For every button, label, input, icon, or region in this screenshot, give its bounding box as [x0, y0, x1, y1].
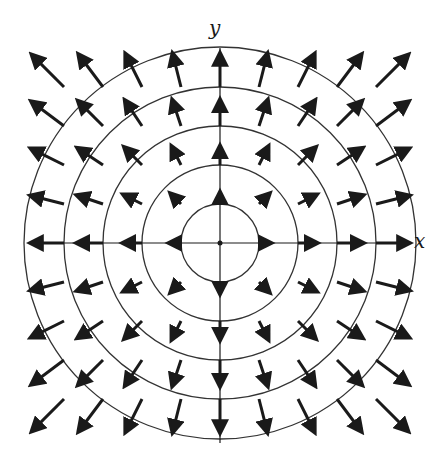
field-arrow-icon	[376, 399, 408, 431]
field-arrow-icon	[259, 194, 269, 204]
origin-dot	[218, 241, 223, 246]
field-arrow-icon	[32, 102, 64, 126]
field-arrow-icon	[31, 196, 64, 204]
field-arrow-icon	[259, 101, 268, 126]
field-arrow-icon	[376, 55, 408, 87]
field-arrow-icon	[32, 399, 64, 431]
field-arrow-icon	[126, 55, 142, 87]
field-arrow-icon	[78, 282, 103, 291]
field-arrow-icon	[171, 282, 181, 292]
vector-field-plot	[0, 0, 446, 463]
field-arrow-icon	[172, 321, 181, 339]
field-arrow-icon	[32, 55, 64, 87]
field-arrow-icon	[126, 399, 142, 431]
field-arrow-icon	[259, 321, 268, 339]
field-arrow-icon	[376, 196, 409, 204]
field-arrow-icon	[298, 148, 315, 165]
field-arrow-icon	[376, 282, 409, 290]
field-arrow-icon	[376, 360, 408, 384]
field-arrow-icon	[376, 149, 408, 165]
field-arrow-icon	[171, 194, 181, 204]
field-arrow-icon	[337, 282, 362, 291]
field-arrow-icon	[337, 102, 361, 126]
field-arrow-icon	[79, 399, 103, 431]
field-arrow-icon	[298, 55, 314, 87]
field-arrow-icon	[337, 399, 361, 431]
vector-field-diagram: x y	[0, 0, 446, 463]
field-arrow-icon	[32, 321, 64, 337]
field-arrow-icon	[298, 195, 316, 204]
field-arrow-icon	[298, 101, 315, 126]
field-arrow-icon	[298, 360, 315, 385]
field-arrow-icon	[32, 149, 64, 165]
field-arrow-icon	[173, 399, 181, 432]
field-arrow-icon	[337, 148, 362, 165]
field-arrow-icon	[298, 399, 314, 431]
field-arrow-icon	[173, 101, 182, 126]
field-arrow-icon	[259, 54, 267, 87]
field-arrow-icon	[259, 282, 269, 292]
y-axis-label: y	[209, 18, 220, 38]
field-arrow-icon	[259, 399, 267, 432]
field-arrow-icon	[79, 102, 103, 126]
field-arrow-icon	[337, 55, 361, 87]
field-arrow-icon	[172, 147, 181, 165]
field-arrow-icon	[31, 282, 64, 290]
field-arrow-icon	[337, 360, 361, 384]
field-arrow-icon	[376, 321, 408, 337]
field-arrow-icon	[173, 54, 181, 87]
field-arrow-icon	[78, 196, 103, 205]
field-arrow-icon	[124, 195, 142, 204]
field-arrow-icon	[125, 101, 142, 126]
field-arrow-icon	[78, 321, 103, 338]
field-arrow-icon	[298, 321, 315, 338]
field-arrow-icon	[173, 360, 182, 385]
field-arrow-icon	[79, 360, 103, 384]
field-arrow-icon	[124, 282, 142, 291]
field-arrow-icon	[125, 321, 142, 338]
field-arrow-icon	[259, 360, 268, 385]
field-arrow-icon	[125, 360, 142, 385]
field-arrow-icon	[298, 282, 316, 291]
field-arrow-icon	[125, 148, 142, 165]
field-arrow-icon	[259, 147, 268, 165]
field-arrow-icon	[376, 102, 408, 126]
field-arrow-icon	[32, 360, 64, 384]
field-arrow-icon	[78, 148, 103, 165]
field-arrow-icon	[337, 321, 362, 338]
field-arrow-icon	[337, 196, 362, 205]
field-arrow-icon	[79, 55, 103, 87]
x-axis-label: x	[414, 231, 425, 251]
